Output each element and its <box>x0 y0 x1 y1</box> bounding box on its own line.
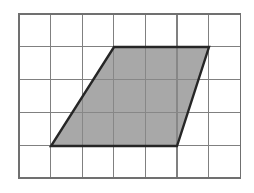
figure-root <box>0 0 254 193</box>
parallelogram-grid-diagram <box>0 0 254 193</box>
